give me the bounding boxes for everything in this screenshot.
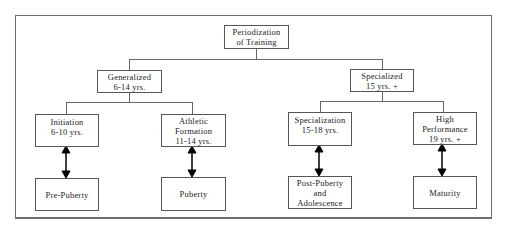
- node-age-range: 6-14 yrs.: [113, 82, 145, 92]
- node-maturity: Maturity: [413, 176, 477, 209]
- node-label: Periodization: [233, 27, 281, 37]
- node-age-range: 19 yrs. +: [429, 134, 461, 144]
- double-arrow-icon: [438, 144, 446, 176]
- double-arrow-icon: [315, 145, 323, 176]
- node-high-performance: High Performance 19 yrs. +: [413, 112, 477, 145]
- node-periodization-of-training: Periodization of Training: [224, 25, 289, 49]
- node-specialization: Specialization 15-18 yrs.: [288, 112, 352, 146]
- node-generalized: Generalized 6-14 yrs.: [97, 70, 162, 93]
- node-age-range: 15-18 yrs.: [302, 125, 338, 135]
- node-specialized: Specialized 15 yrs. +: [350, 69, 414, 92]
- node-label: Specialized: [361, 71, 402, 81]
- node-pre-puberty: Pre-Puberty: [35, 178, 99, 211]
- node-label: Specialization: [295, 115, 346, 125]
- double-arrow-icon: [62, 146, 70, 178]
- node-label: Formation: [175, 126, 212, 136]
- double-arrow-icon: [188, 146, 196, 177]
- node-post-puberty-and-adolescence: Post-Puberty and Adolescence: [288, 176, 352, 209]
- node-puberty: Puberty: [161, 177, 226, 211]
- node-label: Initiation: [50, 117, 83, 127]
- node-label: of Training: [236, 37, 276, 47]
- node-initiation: Initiation 6-10 yrs.: [35, 114, 99, 147]
- node-age-range: 6-10 yrs.: [51, 127, 83, 137]
- node-label: Puberty: [180, 189, 208, 199]
- node-label: Pre-Puberty: [46, 190, 89, 200]
- node-label: Athletic: [179, 116, 208, 126]
- node-label: and: [314, 188, 327, 198]
- node-label: High: [436, 114, 454, 124]
- node-label: Generalized: [108, 72, 151, 82]
- node-age-range: 11-14 yrs.: [175, 136, 211, 146]
- node-athletic-formation: Athletic Formation 11-14 yrs.: [161, 114, 226, 147]
- node-label: Performance: [422, 124, 468, 134]
- node-label: Adolescence: [297, 198, 343, 208]
- node-label: Maturity: [429, 188, 460, 198]
- node-label: Post-Puberty: [297, 178, 343, 188]
- node-age-range: 15 yrs. +: [366, 81, 398, 91]
